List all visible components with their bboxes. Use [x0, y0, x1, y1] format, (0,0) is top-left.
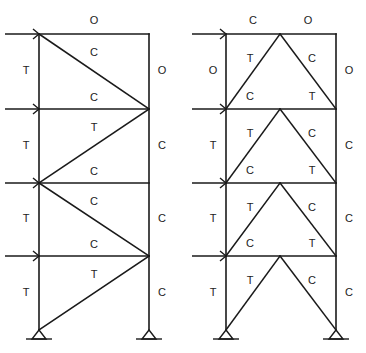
- force-label: C: [90, 238, 98, 250]
- force-label: C: [308, 274, 316, 286]
- force-label: O: [90, 14, 99, 26]
- force-label: O: [158, 64, 167, 76]
- force-label: C: [249, 14, 257, 26]
- lateral-load-arrow-2: [5, 178, 39, 188]
- pin-support-left: [213, 330, 239, 339]
- force-label: O: [345, 64, 354, 76]
- force-label: T: [309, 237, 316, 249]
- force-label: C: [90, 46, 98, 58]
- force-label: C: [158, 286, 166, 298]
- right-brace-story-4: [280, 256, 336, 330]
- pin-support-right: [323, 330, 349, 339]
- force-label: T: [210, 286, 217, 298]
- force-label: T: [210, 212, 217, 224]
- lateral-load-arrow-2: [192, 178, 226, 188]
- force-label: C: [308, 201, 316, 213]
- force-label: C: [90, 195, 98, 207]
- force-label: T: [247, 127, 254, 139]
- force-label: T: [23, 286, 30, 298]
- pin-support-left: [26, 330, 52, 339]
- force-label: O: [304, 14, 313, 26]
- force-label: C: [246, 237, 254, 249]
- force-label: C: [308, 127, 316, 139]
- braced-frames-diagram: OTOCCTCTCTCCCTCT COOOTCCTTCTCCTTCTCCTTCT…: [0, 0, 366, 353]
- force-label: T: [91, 268, 98, 280]
- force-label: C: [345, 139, 353, 151]
- force-label: C: [246, 164, 254, 176]
- force-label: T: [309, 164, 316, 176]
- force-label: C: [308, 52, 316, 64]
- force-label: C: [345, 212, 353, 224]
- force-label: T: [91, 121, 98, 133]
- force-label: T: [23, 64, 30, 76]
- force-label: C: [90, 91, 98, 103]
- force-label: C: [158, 139, 166, 151]
- force-label: C: [246, 90, 254, 102]
- lateral-load-arrow-0: [192, 29, 226, 39]
- lateral-load-arrow-1: [192, 104, 226, 114]
- lateral-load-arrow-3: [5, 251, 39, 261]
- force-label: T: [309, 90, 316, 102]
- force-label: C: [90, 165, 98, 177]
- pin-support-right: [136, 330, 162, 339]
- lateral-load-arrow-0: [5, 29, 39, 39]
- left-brace-story-4: [226, 256, 280, 330]
- force-label: T: [210, 139, 217, 151]
- chevron-braced-frame: COOOTCCTTCTCCTTCTCCTTCTC: [192, 14, 354, 339]
- force-label: T: [23, 212, 30, 224]
- force-label: C: [158, 212, 166, 224]
- force-label: C: [345, 286, 353, 298]
- force-label: T: [247, 274, 254, 286]
- force-label: O: [209, 64, 218, 76]
- force-label: T: [23, 139, 30, 151]
- lateral-load-arrow-1: [5, 104, 39, 114]
- lateral-load-arrow-3: [192, 251, 226, 261]
- force-label: T: [247, 201, 254, 213]
- single-diagonal-braced-frame: OTOCCTCTCTCCCTCT: [5, 14, 167, 339]
- force-label: T: [247, 52, 254, 64]
